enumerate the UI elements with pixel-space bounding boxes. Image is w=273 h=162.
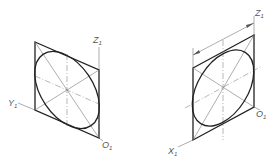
right-z-label: Z1 — [254, 8, 264, 19]
right-x-axis — [178, 140, 193, 147]
right-x-label: X1 — [167, 146, 177, 157]
left-y-axis — [18, 103, 35, 110]
dimension-arrow-right — [246, 23, 254, 28]
right-figure: Z1 X1 O1 — [167, 8, 266, 157]
left-figure: Z1 Y1 O1 — [8, 35, 113, 151]
left-z-label: Z1 — [92, 35, 102, 46]
left-y-label: Y1 — [8, 98, 17, 109]
right-origin-label: O1 — [256, 109, 266, 120]
dimension-arrow-left — [193, 50, 200, 55]
isometric-ellipse-drawing: Z1 Y1 O1 Z1 X1 O1 — [0, 0, 273, 162]
left-origin-label: O1 — [102, 140, 112, 151]
